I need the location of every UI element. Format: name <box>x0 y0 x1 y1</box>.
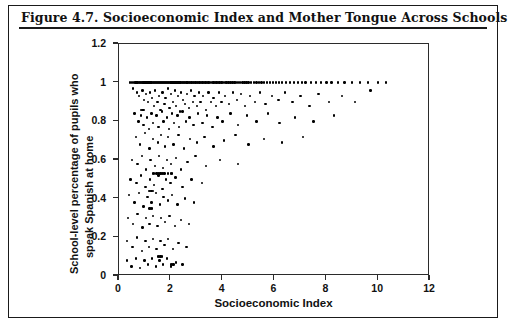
scatter-point <box>312 120 314 122</box>
scatter-point <box>188 107 190 109</box>
scatter-point <box>369 89 371 91</box>
scatter-point <box>202 95 204 97</box>
scatter-point <box>237 163 239 165</box>
scatter-point <box>140 174 142 176</box>
scatter-point <box>192 124 194 126</box>
scatter-point <box>131 159 133 161</box>
y-tick-mark <box>113 197 118 198</box>
scatter-point <box>161 188 163 190</box>
scatter-point <box>135 182 137 184</box>
scatter-point <box>155 114 157 116</box>
scatter-point <box>269 81 271 83</box>
scatter-point <box>244 105 246 107</box>
scatter-point <box>182 99 184 101</box>
scatter-point <box>255 120 257 122</box>
scatter-point <box>154 89 156 91</box>
scatter-point <box>278 81 280 83</box>
x-tick-label: 10 <box>365 282 389 294</box>
scatter-point <box>172 248 174 250</box>
scatter-point <box>150 112 152 114</box>
x-tick-mark <box>221 275 222 280</box>
scatter-point <box>173 122 175 124</box>
scatter-point <box>224 95 226 97</box>
scatter-point <box>228 103 230 105</box>
scatter-point <box>203 136 205 138</box>
scatter-point <box>377 81 379 83</box>
scatter-point <box>278 122 280 124</box>
scatter-point <box>163 244 165 246</box>
scatter-point <box>168 107 170 109</box>
scatter-point <box>162 120 164 122</box>
y-tick-label: 0.8 <box>76 114 106 126</box>
scatter-point <box>285 81 287 83</box>
scatter-point <box>385 81 387 83</box>
scatter-point <box>196 141 198 143</box>
scatter-point <box>152 215 154 217</box>
scatter-point <box>220 101 222 103</box>
y-tick-mark <box>113 236 118 237</box>
scatter-point <box>291 101 293 103</box>
scatter-point <box>141 89 143 91</box>
scatter-point <box>328 101 330 103</box>
scatter-point <box>289 81 291 83</box>
scatter-point <box>152 238 154 240</box>
scatter-point <box>190 178 192 180</box>
scatter-point <box>145 93 147 95</box>
scatter-point <box>199 101 201 103</box>
x-tick-label: 6 <box>262 282 286 294</box>
scatter-point <box>161 91 163 93</box>
scatter-point <box>147 263 149 265</box>
scatter-point <box>171 194 173 196</box>
scatter-point <box>181 110 183 112</box>
scatter-point <box>164 145 166 147</box>
y-tick-label: 0 <box>76 269 106 281</box>
scatter-point <box>330 81 332 83</box>
scatter-point <box>297 81 299 83</box>
scatter-point <box>172 101 174 103</box>
scatter-point <box>162 167 164 169</box>
scatter-point <box>259 91 261 93</box>
scatter-point <box>167 238 169 240</box>
scatter-point <box>277 99 279 101</box>
scatter-point <box>315 81 317 83</box>
scatter-point <box>263 138 265 140</box>
scatter-point <box>141 226 143 228</box>
scatter-point <box>159 203 161 205</box>
scatter-point <box>143 99 145 101</box>
scatter-point <box>163 103 165 105</box>
scatter-point <box>139 143 141 145</box>
scatter-point <box>201 182 203 184</box>
scatter-point <box>190 89 192 91</box>
scatter-point <box>193 201 195 203</box>
x-tick-label: 12 <box>417 282 441 294</box>
scatter-point <box>137 120 139 122</box>
scatter-point <box>153 105 155 107</box>
scatter-point <box>156 225 158 227</box>
scatter-point <box>219 159 221 161</box>
scatter-point <box>294 116 296 118</box>
scatter-point <box>301 81 303 83</box>
scatter-point <box>161 110 163 112</box>
scatter-point <box>161 255 163 257</box>
scatter-point <box>236 99 238 101</box>
scatter-point <box>367 81 369 83</box>
scatter-point <box>131 246 133 248</box>
scatter-point <box>237 124 239 126</box>
scatter-point <box>215 105 217 107</box>
scatter-point <box>223 139 225 141</box>
scatter-point <box>144 132 146 134</box>
scatter-point <box>174 89 176 91</box>
scatter-point <box>148 246 150 248</box>
scatter-point <box>175 157 177 159</box>
x-tick-label: 2 <box>158 282 182 294</box>
scatter-point <box>136 213 138 215</box>
scatter-point <box>133 112 135 114</box>
scatter-point <box>135 136 137 138</box>
scatter-point <box>216 116 218 118</box>
scatter-point <box>174 225 176 227</box>
scatter-point <box>192 101 194 103</box>
scatter-point <box>127 217 129 219</box>
scatter-point <box>154 165 156 167</box>
y-tick-mark <box>113 42 118 43</box>
scatter-point <box>211 126 213 128</box>
